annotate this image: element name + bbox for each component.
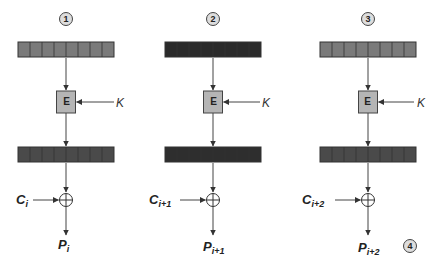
step-4-badge: 4 (403, 239, 417, 253)
step-1-badge: 1 (59, 12, 73, 26)
step-3-badge: 3 (361, 12, 375, 26)
cipher-label-2: Ci+1 (149, 193, 171, 209)
cipher-label-3: Ci+2 (302, 193, 324, 209)
step-2-badge: 2 (206, 12, 220, 26)
plain-label-1: Pi (58, 238, 69, 254)
encrypt-box-2-label: E (204, 97, 223, 107)
encrypt-box-3-label: E (358, 97, 377, 107)
key-label-3: K (417, 97, 425, 109)
cipher-label-1: Ci (16, 193, 28, 209)
key-label-2: K (262, 97, 270, 109)
cfb-decryption-diagram: 1 E K Ci Pi 2 E K Ci+1 Pi+1 3 E K Ci+2 P… (0, 0, 440, 268)
plain-label-3: Pi+2 (358, 241, 379, 257)
diagram-canvas (0, 0, 440, 268)
key-label-1: K (116, 97, 124, 109)
plain-label-2: Pi+1 (203, 240, 224, 256)
encrypt-box-1-label: E (57, 97, 76, 107)
